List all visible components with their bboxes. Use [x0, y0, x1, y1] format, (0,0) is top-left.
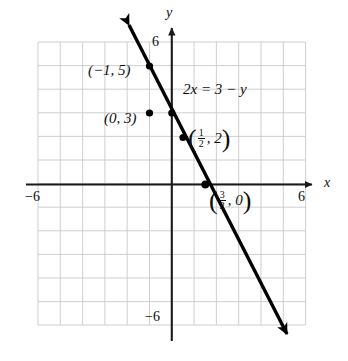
graph-figure: (−1, 5) (0, 3) 2x = 3 − y ( 1 2 , 2 ) ( …: [0, 0, 348, 361]
fraction-three-halves: 3 2: [219, 190, 226, 211]
point-label-half-2: ( 1 2 , 2 ): [188, 128, 230, 149]
x-axis-min-tick-label: −6: [25, 190, 40, 204]
y-axis-max-tick-label: 6: [152, 35, 159, 49]
point-marker: [146, 62, 153, 69]
point-label-0-3: (0, 3): [104, 111, 137, 126]
y-axis-min-tick-label: −6: [145, 310, 160, 324]
point-marker: [146, 109, 153, 116]
x-axis-label: x: [324, 176, 330, 190]
fraction-rest: , 2: [207, 131, 222, 146]
paren-close: ): [243, 190, 252, 211]
point-label-threehalves-0: ( 3 2 , 0 ): [209, 190, 251, 211]
line-2x-eq-3-minus-y: [129, 25, 287, 334]
y-axis-label: y: [166, 6, 172, 20]
point-label-minus1-5: (−1, 5): [88, 63, 131, 78]
paren-close: ): [222, 128, 231, 149]
x-axis-max-tick-label: 6: [298, 190, 305, 204]
point-marker: [168, 109, 175, 116]
paren-open: (: [209, 190, 218, 211]
coordinate-plane: [0, 0, 348, 361]
fraction-rest: , 0: [228, 193, 243, 208]
fraction-one-half: 1 2: [198, 128, 205, 149]
point-marker: [179, 134, 186, 141]
equation-label: 2x = 3 − y: [183, 82, 247, 97]
paren-open: (: [188, 128, 197, 149]
